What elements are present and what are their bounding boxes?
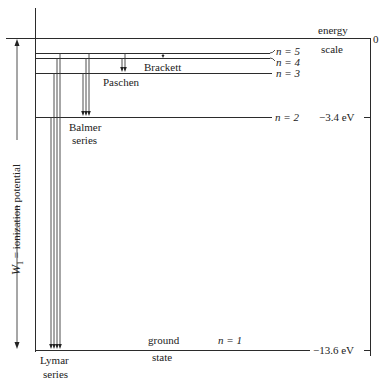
brackett-series-arrow — [162, 53, 165, 58]
lyman-label-line1: Lymar — [40, 354, 69, 366]
paschen-label: Paschen — [103, 76, 140, 88]
level-n5-connector — [270, 50, 275, 53]
level-n1-label: n = 1 — [218, 334, 242, 346]
arrow-down-icon — [15, 342, 20, 349]
energy-scale-label-line1: energy — [318, 24, 348, 36]
energy-level-diagram: Brackett Paschen Balmer series Lymar ser… — [0, 0, 386, 389]
ground-state-label-line2: state — [152, 351, 172, 363]
lyman-series-arrows — [49, 53, 62, 349]
balmer-label-line1: Balmer — [69, 121, 102, 133]
paschen-series-arrows — [120, 53, 127, 72]
level-n3-label: n = 3 — [276, 67, 300, 79]
level-n4-connector — [270, 58, 275, 61]
energy-scale-label-line2: scale — [321, 43, 343, 55]
ionization-text: = ionization potential — [10, 164, 22, 258]
svg-text:W1 = ionization potential: W1 = ionization potential — [9, 164, 25, 275]
arrow-up-icon — [15, 39, 20, 46]
level-n2-label: n = 2 — [275, 111, 299, 123]
balmer-label-line2: series — [72, 134, 97, 146]
ionization-potential-label: W1 = ionization potential — [9, 164, 25, 275]
energy-n2-value: −3.4 eV — [319, 111, 355, 123]
energy-n1-value: −13.6 eV — [313, 344, 354, 356]
balmer-series-arrows — [81, 53, 91, 116]
lyman-label-line2: series — [43, 368, 68, 380]
brackett-label: Brackett — [144, 61, 181, 73]
ground-state-label-line1: ground — [148, 334, 180, 346]
energy-zero-label: 0 — [373, 33, 379, 45]
